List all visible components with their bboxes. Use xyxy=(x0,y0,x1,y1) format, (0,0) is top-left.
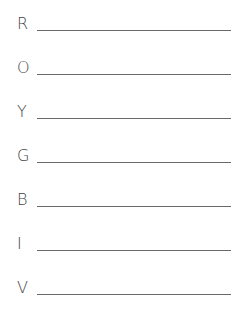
answer-blank-line xyxy=(37,294,231,295)
worksheet-row: G xyxy=(0,148,248,192)
worksheet-row: B xyxy=(0,192,248,236)
answer-blank-line xyxy=(37,118,231,119)
worksheet-row: I xyxy=(0,236,248,280)
row-letter: I xyxy=(17,236,22,252)
worksheet-row: Y xyxy=(0,104,248,148)
answer-blank-line xyxy=(37,162,231,163)
row-letter: V xyxy=(17,280,28,296)
worksheet-row: R xyxy=(0,16,248,60)
row-letter: B xyxy=(17,192,27,208)
answer-blank-line xyxy=(37,30,231,31)
row-letter: O xyxy=(17,60,30,76)
worksheet-row: O xyxy=(0,60,248,104)
row-letter: Y xyxy=(17,104,27,120)
worksheet-row: V xyxy=(0,280,248,313)
answer-blank-line xyxy=(37,206,231,207)
row-letter: G xyxy=(17,148,29,164)
answer-blank-line xyxy=(37,250,231,251)
row-letter: R xyxy=(17,16,28,32)
answer-blank-line xyxy=(37,74,231,75)
